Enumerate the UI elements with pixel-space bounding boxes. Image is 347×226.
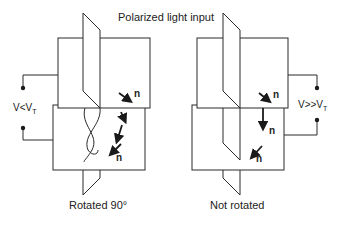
right-terminal-top xyxy=(315,86,319,90)
arrow-icon xyxy=(121,112,125,121)
left-terminal-top xyxy=(21,86,25,90)
left-lower-cell xyxy=(53,105,145,170)
left-output-polarizer xyxy=(83,170,100,195)
right-voltage-label: V>>VT xyxy=(298,99,328,112)
right-director-label-top: n xyxy=(273,89,279,100)
right-caption: Not rotated xyxy=(210,199,264,211)
right-lower-cell xyxy=(192,105,284,170)
left-director-label-top: n xyxy=(134,88,140,99)
left-caption: Rotated 90° xyxy=(69,199,127,211)
left-panel xyxy=(23,13,150,195)
right-wire-bottom xyxy=(284,120,317,135)
left-input-polarizer xyxy=(83,13,100,108)
right-terminal-bottom xyxy=(315,118,319,122)
lcd-polarization-diagram: Polarized light input V<VT n n Rotated 9… xyxy=(0,0,347,226)
right-input-polarizer xyxy=(223,13,240,108)
right-director-label-bottom: n xyxy=(256,153,262,164)
title-label: Polarized light input xyxy=(118,11,214,23)
left-wire-bottom xyxy=(23,128,53,140)
right-director-label-mid: n xyxy=(269,125,275,136)
left-voltage-label: V<VT xyxy=(13,102,37,115)
left-wire-top xyxy=(23,75,58,88)
arrow-icon xyxy=(117,125,122,141)
right-wire-top xyxy=(288,75,317,88)
right-output-polarizer xyxy=(223,170,240,195)
right-straight-path xyxy=(223,108,240,160)
left-terminal-bottom xyxy=(21,126,25,130)
left-director-label-bottom: n xyxy=(116,152,122,163)
